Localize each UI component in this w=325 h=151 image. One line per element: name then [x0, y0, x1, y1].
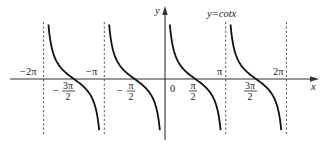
svg-text:2: 2	[66, 91, 71, 102]
tick-label-neg-pi: −π	[86, 66, 98, 77]
svg-text:π: π	[128, 80, 133, 91]
y-axis-arrow-icon	[162, 6, 167, 15]
svg-text:2: 2	[248, 91, 253, 102]
svg-text:3π: 3π	[63, 80, 73, 91]
svg-text:2: 2	[129, 91, 134, 102]
x-axis-label: x	[310, 81, 316, 92]
tick-label-three-pi-half: 3π 2	[244, 80, 257, 102]
tick-label-origin: 0	[170, 83, 175, 94]
cot-branch	[109, 24, 160, 130]
cot-branch	[231, 24, 282, 130]
svg-text:3π: 3π	[245, 80, 255, 91]
tick-label-neg-pi-half: − π 2	[117, 80, 135, 102]
tick-label-pi-half: π 2	[189, 80, 197, 102]
cot-branch	[48, 24, 99, 130]
tick-label-neg-two-pi: −2π	[20, 66, 37, 77]
svg-text:2: 2	[191, 91, 196, 102]
svg-text:−: −	[117, 85, 123, 96]
svg-text:π: π	[190, 80, 195, 91]
tick-label-pi: π	[217, 66, 223, 77]
y-axis-label: y	[154, 5, 160, 16]
tick-label-two-pi: 2π	[273, 66, 284, 77]
cot-graph: y x y=cotx −2π −π π 2π 0 − 3π 2 − π 2 π …	[0, 0, 325, 151]
chart-title: y=cotx	[206, 8, 237, 19]
tick-label-neg-three-pi-half: − 3π 2	[53, 80, 75, 102]
svg-text:−: −	[53, 85, 59, 96]
cot-branch	[170, 24, 221, 130]
